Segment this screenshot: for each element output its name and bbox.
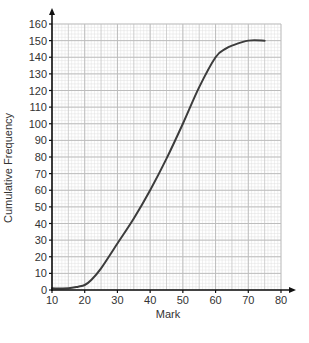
y-tick-label: 10 xyxy=(35,267,47,279)
x-axis-ticks: 1020304050607080 xyxy=(46,290,287,306)
x-tick-label: 10 xyxy=(46,294,58,306)
y-tick-label: 80 xyxy=(35,151,47,163)
y-tick-label: 120 xyxy=(29,85,47,97)
x-tick-label: 20 xyxy=(79,294,91,306)
y-tick-label: 90 xyxy=(35,134,47,146)
y-tick-label: 100 xyxy=(29,118,47,130)
y-tick-label: 40 xyxy=(35,218,47,230)
x-tick-label: 60 xyxy=(209,294,221,306)
y-tick-label: 130 xyxy=(29,68,47,80)
x-tick-label: 30 xyxy=(111,294,123,306)
x-tick-label: 70 xyxy=(242,294,254,306)
y-axis-ticks: 0102030405060708090100110120130140150160 xyxy=(29,18,52,296)
y-tick-label: 20 xyxy=(35,251,47,263)
y-axis-label: Cumulative Frequency xyxy=(2,112,14,223)
x-tick-label: 80 xyxy=(275,294,287,306)
y-tick-label: 160 xyxy=(29,18,47,30)
cumulative-frequency-line xyxy=(52,40,265,288)
y-tick-label: 30 xyxy=(35,234,47,246)
y-tick-label: 140 xyxy=(29,51,47,63)
y-tick-label: 150 xyxy=(29,35,47,47)
y-tick-label: 70 xyxy=(35,168,47,180)
cumulative-frequency-chart: 0102030405060708090100110120130140150160… xyxy=(0,0,309,343)
y-tick-label: 110 xyxy=(29,101,47,113)
x-axis-label: Mark xyxy=(156,308,181,320)
curve xyxy=(52,40,265,288)
y-tick-label: 50 xyxy=(35,201,47,213)
x-axis-arrow-icon xyxy=(289,287,296,293)
y-tick-label: 60 xyxy=(35,184,47,196)
y-axis-arrow-icon xyxy=(49,8,55,15)
x-tick-label: 50 xyxy=(177,294,189,306)
x-tick-label: 40 xyxy=(144,294,156,306)
